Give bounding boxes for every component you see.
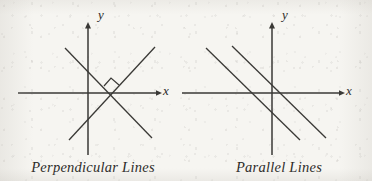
y-axis-label: y [282, 8, 288, 21]
perpendicular-diagram [0, 0, 186, 181]
upper-left-line [206, 48, 300, 140]
x-axis-label: x [163, 84, 169, 97]
y-axis-label: y [98, 8, 104, 21]
x-axis-label: x [346, 84, 352, 97]
figure-caption-parallel: Parallel Lines [186, 160, 372, 175]
figure-page: y x Perpendicular Lines y x [0, 0, 372, 181]
lower-right-line [232, 46, 326, 138]
figure-perpendicular-lines: y x Perpendicular Lines [0, 0, 186, 181]
figure-parallel-lines: y x Parallel Lines [186, 0, 372, 181]
parallel-diagram [186, 0, 372, 181]
figure-caption-perpendicular: Perpendicular Lines [0, 160, 186, 175]
right-angle-marker-icon [104, 78, 119, 86]
